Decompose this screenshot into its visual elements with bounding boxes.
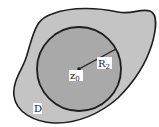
region-label: D [34,103,42,114]
diagram-figure: z0 R2 D [0,0,159,127]
